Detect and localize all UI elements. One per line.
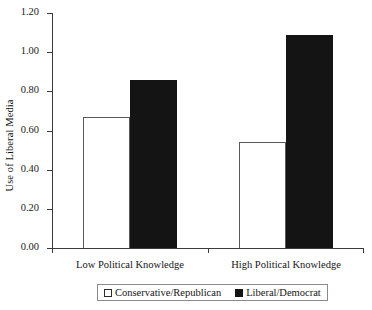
- x-category-label-1: High Political Knowledge: [208, 259, 364, 270]
- y-tick-label-5: 0.20: [21, 202, 39, 213]
- legend-label-conservative-republican: Conservative/Republican: [115, 287, 221, 298]
- y-axis-title-text: Use of Liberal Media: [4, 99, 15, 191]
- legend-entry-conservative-republican: Conservative/Republican: [104, 287, 221, 298]
- chart-legend: Conservative/Republican Liberal/Democrat: [97, 284, 328, 301]
- legend-swatch-open-icon: [104, 289, 112, 297]
- x-tick-group-0: [52, 248, 53, 253]
- x-tick-group-2: [363, 248, 364, 253]
- y-tick-2: 0.80: [47, 91, 53, 92]
- bar-chart: Use of Liberal Media 1.20 1.00 0.80 0.60…: [0, 0, 372, 310]
- legend-label-liberal-democrat: Liberal/Democrat: [246, 287, 321, 298]
- y-tick-0: 1.20: [47, 13, 53, 14]
- x-tick-group-1: [208, 248, 209, 253]
- y-tick-3: 0.60: [47, 131, 53, 132]
- y-tick-label-4: 0.40: [21, 163, 39, 174]
- x-category-label-0: Low Political Knowledge: [52, 259, 208, 270]
- y-tick-5: 0.20: [47, 209, 53, 210]
- y-tick-1: 1.00: [47, 52, 53, 53]
- legend-entry-liberal-democrat: Liberal/Democrat: [235, 287, 321, 298]
- bar-high-knowledge-liberal-democrat: [286, 35, 333, 248]
- y-tick-label-0: 1.20: [21, 6, 39, 17]
- y-tick-label-3: 0.60: [21, 124, 39, 135]
- bar-low-knowledge-conservative-republican: [83, 117, 130, 248]
- y-tick-label-6: 0.00: [21, 241, 39, 252]
- y-axis-title: Use of Liberal Media: [0, 80, 18, 210]
- bar-high-knowledge-conservative-republican: [239, 142, 286, 248]
- legend-swatch-filled-icon: [235, 289, 243, 297]
- y-tick-label-1: 1.00: [21, 45, 39, 56]
- bar-low-knowledge-liberal-democrat: [130, 80, 177, 248]
- y-tick-4: 0.40: [47, 170, 53, 171]
- y-tick-label-2: 0.80: [21, 84, 39, 95]
- plot-area: 1.20 1.00 0.80 0.60 0.40 0.20 0.00 L: [52, 13, 364, 248]
